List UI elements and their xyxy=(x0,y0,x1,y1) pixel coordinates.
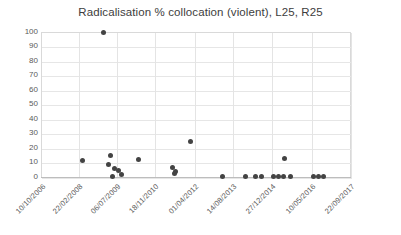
data-point xyxy=(110,174,115,179)
scatter-chart: Radicalisation % collocation (violent), … xyxy=(0,0,401,235)
data-point xyxy=(321,174,326,179)
data-point xyxy=(108,153,113,158)
data-point xyxy=(282,156,287,161)
data-point xyxy=(243,174,248,179)
x-axis-tick-label: 10/10/2006 xyxy=(14,182,48,216)
data-point xyxy=(80,158,85,163)
x-axis-tick-label: 22/02/2008 xyxy=(51,182,85,216)
data-point xyxy=(288,174,293,179)
data-point xyxy=(106,162,111,167)
x-axis-tick-label: 27/12/2014 xyxy=(244,182,278,216)
data-point xyxy=(119,172,124,177)
data-point xyxy=(101,30,106,35)
data-point xyxy=(276,174,281,179)
x-axis: 10/10/200622/02/200806/07/200918/11/2010… xyxy=(0,0,401,235)
data-point xyxy=(311,174,316,179)
data-point xyxy=(172,171,177,176)
data-point xyxy=(259,174,264,179)
data-point xyxy=(316,174,321,179)
x-axis-tick-label: 14/08/2013 xyxy=(205,182,239,216)
x-axis-tick-label: 18/11/2010 xyxy=(127,182,160,215)
x-axis-tick-label: 01/04/2012 xyxy=(167,182,201,216)
data-point xyxy=(253,174,258,179)
x-axis-tick-label: 06/07/2009 xyxy=(89,182,123,216)
data-point xyxy=(136,157,141,162)
x-axis-tick-label: 10/05/2016 xyxy=(284,182,318,216)
data-point xyxy=(220,174,225,179)
data-point xyxy=(188,139,193,144)
data-point xyxy=(271,174,276,179)
x-axis-tick-label: 22/09/2017 xyxy=(323,182,357,216)
data-point xyxy=(281,174,286,179)
